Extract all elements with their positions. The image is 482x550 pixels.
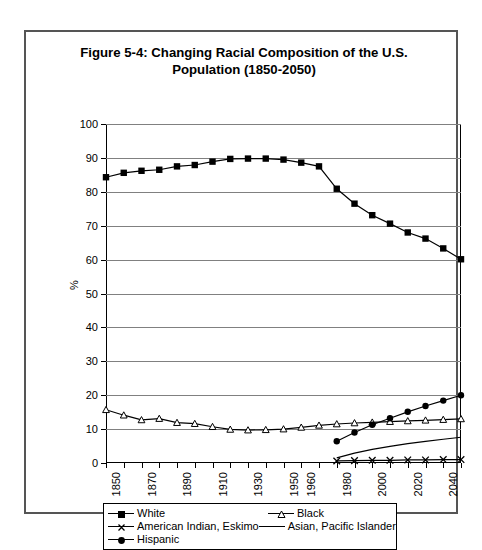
legend-item-white: White <box>108 507 268 520</box>
data-point-marker <box>138 168 144 174</box>
y-axis-tick-label: 40 <box>68 321 98 333</box>
data-point-marker <box>103 406 110 412</box>
data-series-layer <box>106 124 461 463</box>
y-axis-tick-label: 30 <box>68 355 98 367</box>
legend-item-asian-pacific-islander: Asian, Pacific Islander <box>259 520 396 533</box>
legend-label: Asian, Pacific Islander <box>288 520 396 533</box>
x-axis-tick <box>248 463 249 468</box>
series-line <box>337 437 461 458</box>
data-point-marker <box>369 212 375 218</box>
data-point-marker <box>405 409 411 415</box>
data-point-marker <box>227 156 233 162</box>
plot-area: 1009080706050403020100 18501870189019101… <box>106 124 461 463</box>
y-axis-tick-label: 100 <box>68 118 98 130</box>
data-point-marker <box>316 163 322 169</box>
data-point-marker <box>192 162 198 168</box>
x-axis-tick <box>159 463 160 468</box>
data-point-marker <box>174 163 180 169</box>
open-triangle-icon <box>268 508 294 520</box>
x-axis-tick-label: 2020 <box>412 472 424 496</box>
legend-row: American Indian, Eskimo Asian, Pacific I… <box>108 520 392 533</box>
legend-label: Hispanic <box>137 533 179 546</box>
filled-square-icon <box>108 508 134 520</box>
y-axis-tick-label: 60 <box>68 254 98 266</box>
plain-line-icon <box>259 521 285 533</box>
x-axis-tick <box>177 463 178 468</box>
legend-label: American Indian, Eskimo <box>137 520 259 533</box>
x-axis-tick <box>337 463 338 468</box>
data-point-marker <box>280 156 286 162</box>
data-point-marker <box>245 155 251 161</box>
x-axis-tick-label: 2000 <box>376 472 388 496</box>
data-point-marker <box>387 415 393 421</box>
data-point-marker <box>351 429 357 435</box>
data-point-marker <box>121 170 127 176</box>
data-point-marker <box>263 155 269 161</box>
x-axis-tick-label: 1950 <box>288 472 300 496</box>
data-point-marker <box>369 421 375 427</box>
x-axis-tick <box>230 463 231 468</box>
data-point-marker <box>440 245 446 251</box>
y-axis-tick-label: 50 <box>68 288 98 300</box>
x-axis-tick <box>390 463 391 468</box>
x-axis-tick <box>266 463 267 468</box>
figure-title-line1: Figure 5-4: Changing Racial Composition … <box>66 44 422 61</box>
x-axis-tick <box>426 463 427 468</box>
legend-item-american-indian-eskimo: American Indian, Eskimo <box>108 520 259 533</box>
y-axis-tick-label: 70 <box>68 220 98 232</box>
data-point-marker <box>422 235 428 241</box>
x-axis-tick-label: 1890 <box>181 472 193 496</box>
data-point-marker <box>387 220 393 226</box>
data-point-marker <box>298 159 304 165</box>
legend-item-hispanic: Hispanic <box>108 533 268 546</box>
x-axis-tick <box>355 463 356 468</box>
x-axis-tick-label: 1850 <box>110 472 122 496</box>
x-axis-tick <box>319 463 320 468</box>
data-point-marker <box>405 229 411 235</box>
x-axis-tick <box>195 463 196 468</box>
data-point-marker <box>351 200 357 206</box>
figure-title: Figure 5-4: Changing Racial Composition … <box>66 44 422 78</box>
legend-row: White Black <box>108 507 392 520</box>
data-point-marker <box>458 256 464 262</box>
series-line <box>106 159 461 260</box>
data-point-marker <box>440 397 446 403</box>
x-axis-tick-label: 1930 <box>252 472 264 496</box>
x-axis-tick-label: 1960 <box>305 472 317 496</box>
cross-x-icon <box>108 521 134 533</box>
x-axis-tick-label: 2040 <box>447 472 459 496</box>
y-axis-tick-label: 20 <box>68 389 98 401</box>
data-point-marker <box>422 403 428 409</box>
x-axis-tick <box>461 463 462 468</box>
legend-label: White <box>137 507 165 520</box>
data-point-marker <box>156 167 162 173</box>
legend-item-black: Black <box>268 507 392 520</box>
legend-spacer <box>268 533 392 546</box>
figure-title-line2: Population (1850-2050) <box>66 61 422 78</box>
filled-circle-icon <box>108 534 134 546</box>
y-axis-tick-label: 10 <box>68 423 98 435</box>
x-axis-tick <box>301 463 302 468</box>
x-axis-tick <box>213 463 214 468</box>
x-axis-tick-label: 1870 <box>146 472 158 496</box>
data-point-marker <box>334 438 340 444</box>
data-point-marker <box>458 392 464 398</box>
data-point-marker <box>209 158 215 164</box>
x-axis-tick <box>124 463 125 468</box>
x-axis-tick <box>372 463 373 468</box>
x-axis-tick <box>443 463 444 468</box>
legend-label: Black <box>297 507 324 520</box>
data-point-marker <box>334 186 340 192</box>
x-axis-tick <box>142 463 143 468</box>
y-axis-tick-label: 0 <box>68 457 98 469</box>
chart-legend: White Black American Indian, Eskimo <box>103 503 397 550</box>
figure-frame: Figure 5-4: Changing Racial Composition … <box>24 30 458 514</box>
x-axis-tick-label: 1980 <box>341 472 353 496</box>
x-axis-tick-label: 1910 <box>217 472 229 496</box>
x-axis-tick <box>106 463 107 468</box>
x-axis-tick <box>284 463 285 468</box>
legend-row: Hispanic <box>108 533 392 546</box>
data-point-marker <box>103 174 109 180</box>
y-axis-tick-label: 90 <box>68 152 98 164</box>
x-axis-tick <box>408 463 409 468</box>
